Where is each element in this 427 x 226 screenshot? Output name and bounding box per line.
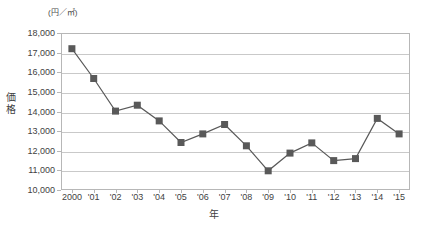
x-axis-tick-mark <box>116 190 117 193</box>
data-point-marker: '04: 13520 <box>156 117 163 124</box>
y-axis-tick-mark <box>57 33 61 34</box>
x-axis-tick-mark <box>94 190 95 193</box>
y-axis-tick-mark <box>57 53 61 54</box>
x-axis-title: 年 <box>0 206 427 221</box>
x-axis-tick-label: '05 <box>175 192 187 203</box>
data-point-marker: 2000: 17200 <box>68 45 75 52</box>
x-axis-tick-mark <box>290 190 291 193</box>
data-point-marker: '12: 11500 <box>330 157 337 164</box>
x-axis-tick-label: '04 <box>153 192 165 203</box>
data-point-marker: '10: 11880 <box>287 150 294 157</box>
y-axis-tick-mark <box>57 170 61 171</box>
y-axis-tick-mark <box>57 92 61 93</box>
x-axis-tick-mark <box>246 190 247 193</box>
data-point-marker: '14: 13650 <box>374 115 381 122</box>
x-axis-tick-label: '01 <box>88 192 100 203</box>
y-axis-tick-label: 14,000 <box>7 107 55 117</box>
y-axis-tick-label: 16,000 <box>7 67 55 77</box>
y-axis-tick-label: 11,000 <box>7 165 55 175</box>
y-axis-tick-mark <box>57 151 61 152</box>
data-point-marker: '07: 13340 <box>221 121 228 128</box>
x-axis-tick-mark <box>159 190 160 193</box>
data-point-marker: '03: 14320 <box>134 102 141 109</box>
x-axis-tick-label: '13 <box>350 192 362 203</box>
x-axis-tick-mark <box>399 190 400 193</box>
x-axis-tick-mark <box>181 190 182 193</box>
price-line-chart: (円／㎡) 価格 2000: 17200'01: 15680'02: 14020… <box>0 0 427 226</box>
data-point-marker: '15: 12860 <box>396 130 403 137</box>
y-axis-tick-label: 12,000 <box>7 146 55 156</box>
y-axis-tick-mark <box>57 72 61 73</box>
x-axis-tick-label: '10 <box>284 192 296 203</box>
data-point-marker: '05: 12420 <box>178 139 185 146</box>
x-axis-tick-mark <box>377 190 378 193</box>
y-axis-tick-label: 10,000 <box>7 185 55 195</box>
data-point-marker: '01: 15680 <box>90 75 97 82</box>
data-point-marker: '08: 12250 <box>243 142 250 149</box>
x-axis-tick-label: '02 <box>110 192 122 203</box>
x-axis-tick-mark <box>225 190 226 193</box>
data-point-marker: '02: 14020 <box>112 108 119 115</box>
x-axis-tick-label: 2000 <box>62 192 82 203</box>
x-axis-tick-label: '12 <box>328 192 340 203</box>
x-axis-tick-mark <box>203 190 204 193</box>
series-line <box>72 49 399 171</box>
x-axis-tick-mark <box>355 190 356 193</box>
x-axis-tick-mark <box>312 190 313 193</box>
x-axis-tick-mark <box>137 190 138 193</box>
x-axis-tick-mark <box>268 190 269 193</box>
x-axis-title-text: 年 <box>209 209 219 220</box>
y-axis-tick-label: 17,000 <box>7 48 55 58</box>
y-axis-tick-label: 15,000 <box>7 87 55 97</box>
x-axis-tick-label: '09 <box>262 192 274 203</box>
series-markers: 2000: 17200'01: 15680'02: 14020'03: 1432… <box>68 45 402 174</box>
y-axis-tick-mark <box>57 112 61 113</box>
x-axis-tick-mark <box>72 190 73 193</box>
x-axis-tick-label: '06 <box>197 192 209 203</box>
y-axis-tick-label: 18,000 <box>7 28 55 38</box>
data-point-marker: '09: 10980 <box>265 167 272 174</box>
x-axis-tick-label: '03 <box>131 192 143 203</box>
y-axis-tick-mark <box>57 190 61 191</box>
x-axis-tick-label: '15 <box>393 192 405 203</box>
data-point-marker: '13: 11600 <box>352 155 359 162</box>
x-axis-tick-label: '14 <box>371 192 383 203</box>
x-axis-tick-label: '11 <box>306 192 317 203</box>
y-axis-tick-label: 13,000 <box>7 126 55 136</box>
x-axis-tick-mark <box>334 190 335 193</box>
data-point-marker: '11: 12400 <box>308 139 315 146</box>
data-point-marker: '06: 12860 <box>199 130 206 137</box>
x-axis-tick-label: '07 <box>219 192 231 203</box>
y-axis-tick-mark <box>57 131 61 132</box>
x-axis-tick-label: '08 <box>241 192 253 203</box>
